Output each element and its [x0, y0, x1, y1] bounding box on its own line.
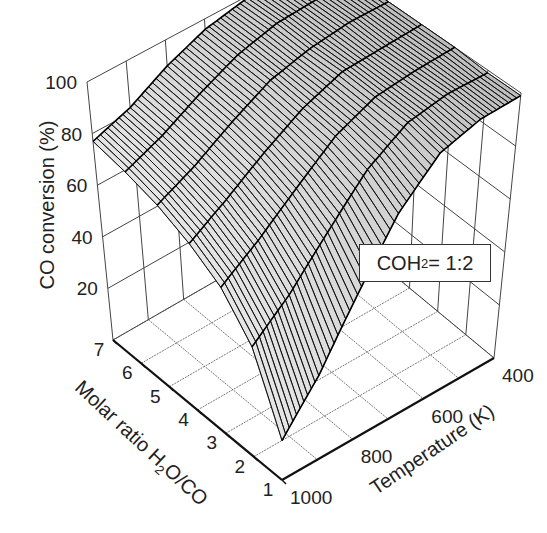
h2o-tick-label: 7 — [94, 339, 105, 360]
temperature-tick-label: 1000 — [290, 487, 332, 508]
z-tick-label: 60 — [66, 175, 87, 196]
annotation-pre: COH — [377, 252, 421, 275]
temperature-tick-label: 800 — [361, 446, 393, 467]
z-tick-label: 100 — [45, 72, 77, 93]
h2o-tick-label: 3 — [206, 432, 217, 453]
y-axis-label: Molar ratio H2O/CO — [68, 376, 212, 513]
surface — [93, 0, 521, 441]
z-tick-label: 20 — [77, 278, 98, 299]
z-tick-label: 80 — [61, 124, 82, 145]
h2o-tick-label: 1 — [263, 479, 274, 500]
h2o-tick-label: 2 — [235, 456, 246, 477]
h2o-tick-label: 5 — [150, 386, 161, 407]
h2o-tick-label: 6 — [122, 362, 133, 383]
h2o-tick-label: 4 — [178, 409, 189, 430]
z-axis-label: CO conversion (%) — [36, 121, 58, 290]
annotation-post: = 1:2 — [428, 252, 473, 275]
annotation-sub: 2 — [421, 256, 428, 271]
z-tick-label: 40 — [71, 227, 92, 248]
annotation-box: COH2 = 1:2 — [359, 244, 491, 282]
temperature-tick-label: 400 — [502, 365, 534, 386]
